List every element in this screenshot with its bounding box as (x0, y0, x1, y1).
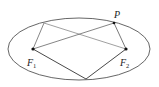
segment-q-f2 (44, 23, 126, 49)
label-p: P (113, 9, 120, 20)
ellipse (8, 18, 150, 80)
segment-f1-b (33, 49, 86, 79)
label-f1-subscript: 1 (33, 62, 36, 69)
segment-f1-p (33, 23, 114, 49)
segment-p-f2 (114, 23, 126, 49)
label-f2-subscript: 2 (126, 62, 129, 69)
point-f1 (31, 47, 34, 50)
segment-q-f1 (33, 23, 44, 49)
ellipse-diagram: P F 1 F 2 (0, 0, 159, 87)
point-p (113, 22, 116, 25)
point-f2 (124, 47, 127, 50)
